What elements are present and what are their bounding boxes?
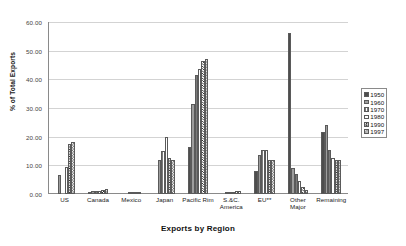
x-axis-tick-label: EU** — [248, 196, 281, 211]
legend-item: 1970 — [364, 106, 384, 113]
y-axis-tick-label: 0.00 — [30, 191, 42, 198]
bar — [338, 160, 341, 194]
legend-label: 1997 — [370, 128, 384, 135]
y-axis-tick-label: 30.00 — [26, 105, 42, 112]
bar — [305, 190, 308, 194]
y-axis-tick-label: 40.00 — [26, 76, 42, 83]
x-axis-tick-label: OtherMajor — [281, 196, 314, 211]
x-axis-tick-label: US — [48, 196, 81, 211]
bar — [138, 192, 141, 194]
legend-label: 1950 — [370, 91, 384, 98]
y-axis-tick-labels: 60.0050.0040.0030.0020.0010.000.00 — [0, 22, 46, 194]
bar — [271, 160, 274, 194]
bar-chart: % of Total Exports 60.0050.0040.0030.002… — [0, 0, 406, 246]
bar — [105, 189, 108, 194]
legend-swatch-icon — [364, 122, 369, 127]
legend-swatch-icon — [364, 92, 369, 97]
legend-label: 1970 — [370, 106, 384, 113]
bar-group — [148, 22, 181, 194]
legend-swatch-icon — [364, 100, 369, 105]
bar-group — [81, 22, 114, 194]
bar-group — [48, 22, 81, 194]
x-axis-tick-label-line: Pacific Rim — [181, 196, 214, 203]
legend-item: 1950 — [364, 91, 384, 98]
x-axis-tick-label-line: US — [48, 196, 81, 203]
x-axis-title: Exports by Region — [48, 224, 348, 233]
bar-group — [215, 22, 248, 194]
legend-item: 1997 — [364, 128, 384, 135]
bar-group — [248, 22, 281, 194]
bar — [71, 142, 74, 194]
legend-label: 1990 — [370, 121, 384, 128]
x-axis-tick-label: Pacific Rim — [181, 196, 214, 211]
x-axis-tick-label: Mexico — [115, 196, 148, 211]
bars-layer — [48, 22, 348, 194]
bar — [58, 175, 61, 194]
bar — [238, 191, 241, 194]
bar — [205, 59, 208, 194]
x-axis-tick-label-line: Canada — [81, 196, 114, 203]
y-axis-tick-label: 50.00 — [26, 47, 42, 54]
legend-label: 1980 — [370, 113, 384, 120]
legend-swatch-icon — [364, 129, 369, 134]
bar — [171, 160, 174, 194]
x-axis-tick-labels: USCanadaMexicoJapanPacific RimS.&C.Ameri… — [48, 196, 348, 211]
x-axis-tick-label-line: Other — [281, 196, 314, 203]
x-axis-tick-label-line: Major — [281, 203, 314, 210]
bar-group — [181, 22, 214, 194]
y-axis-tick-label: 60.00 — [26, 19, 42, 26]
legend-label: 1960 — [370, 99, 384, 106]
legend-item: 1960 — [364, 98, 384, 105]
y-axis-tick-label: 20.00 — [26, 133, 42, 140]
x-axis-tick-label-line: Remaining — [315, 196, 348, 203]
x-axis-tick-label-line: S.&C. — [215, 196, 248, 203]
bar-group — [115, 22, 148, 194]
bar-group — [315, 22, 348, 194]
legend-swatch-icon — [364, 115, 369, 120]
legend-item: 1990 — [364, 121, 384, 128]
legend-item: 1980 — [364, 113, 384, 120]
y-axis-tick-label: 10.00 — [26, 162, 42, 169]
bar-group — [281, 22, 314, 194]
x-axis-tick-label-line: EU** — [248, 196, 281, 203]
x-axis-tick-label: Canada — [81, 196, 114, 211]
x-axis-tick-label: S.&C.America — [215, 196, 248, 211]
x-axis-tick-label-line: Mexico — [115, 196, 148, 203]
x-axis-tick-label-line: America — [215, 203, 248, 210]
legend-swatch-icon — [364, 107, 369, 112]
x-axis-tick-label-line: Japan — [148, 196, 181, 203]
x-axis-tick-label: Remaining — [315, 196, 348, 211]
x-axis-tick-label: Japan — [148, 196, 181, 211]
chart-legend: 195019601970198019901997 — [361, 88, 387, 138]
